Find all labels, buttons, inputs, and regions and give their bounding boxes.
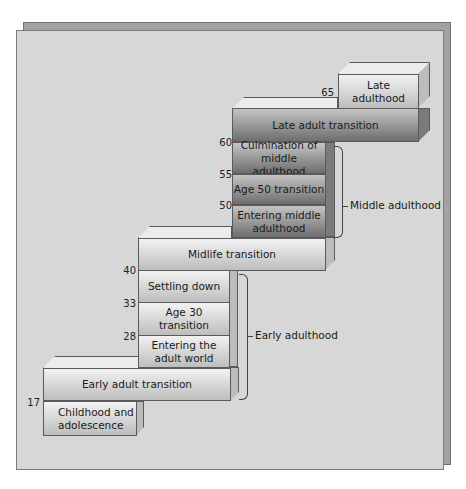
late-adulthood-top-face [338,62,430,74]
early-column-side-face [229,270,238,367]
age-marker-60: 60 [212,137,232,148]
middle-adulthood-brace [334,146,343,238]
stage-midlife-transition: Midlife transition [138,238,326,271]
group-label-middle-adulthood: Middle adulthood [350,199,441,211]
stage-late-adult-transition: Late adult transition [232,108,419,142]
age-marker-55: 55 [212,169,232,180]
early-transition-top-face [43,356,139,368]
age-marker-28: 28 [116,331,136,342]
stage-childhood-adolescence: Childhood andadolescence [43,401,137,436]
stage-entering-middle-adulthood: Entering middleadulthood [232,205,326,238]
early-adulthood-brace-point [247,336,253,337]
age-marker-33: 33 [116,298,136,309]
stage-entering-adult-world: Entering theadult world [138,335,230,368]
stage-culmination-middle-adulthood: Culmination ofmiddle adulthood [232,142,326,174]
stage-late-adulthood: Late adulthood [338,74,419,109]
stage-age-30-transition: Age 30 transition [138,302,230,336]
middle-adulthood-brace-point [342,206,348,207]
age-marker-40: 40 [116,265,136,276]
stage-settling-down: Settling down [138,270,230,303]
stage-age-50-transition: Age 50 transition [232,174,326,205]
midlife-top-face [138,226,232,238]
group-label-early-adulthood: Early adulthood [255,329,338,341]
age-marker-17: 17 [20,397,40,408]
early-adulthood-brace [239,274,248,400]
age-marker-65: 65 [314,87,334,98]
stage-early-adult-transition: Early adult transition [43,368,231,401]
age-marker-50: 50 [212,200,232,211]
